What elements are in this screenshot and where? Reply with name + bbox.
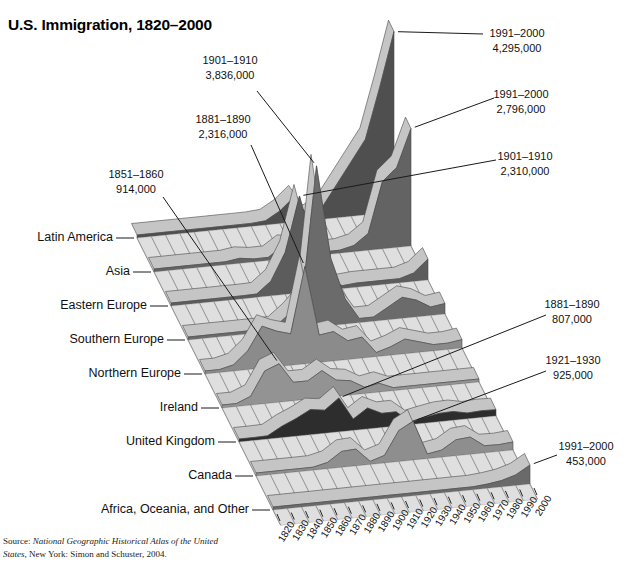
callout-period: 1901–1910 [460, 149, 590, 164]
source-note: Source: National Geographic Historical A… [3, 535, 303, 561]
immigration-chart-page: { "title": "U.S. Immigration, 1820–2000"… [0, 0, 632, 574]
source-line-1: Source: National Geographic Historical A… [3, 535, 303, 548]
callout-value: 807,000 [507, 312, 632, 327]
callout-latin-america: 1991–20004,295,000 [452, 26, 582, 55]
callout-value: 925,000 [508, 368, 632, 383]
row-label-southern-europe: Southern Europe [0, 332, 164, 346]
callout-value: 4,295,000 [452, 41, 582, 56]
row-label-eastern-europe: Eastern Europe [0, 298, 147, 312]
callout-southern-europe: 1901–19103,836,000 [165, 53, 295, 82]
row-label-asia: Asia [0, 264, 130, 278]
callout-value: 2,796,000 [456, 102, 586, 117]
callout-united-kingdom: 1881–1890807,000 [507, 297, 632, 326]
callout-value: 453,000 [521, 454, 632, 469]
callout-period: 1921–1930 [508, 353, 632, 368]
callout-value: 2,310,000 [460, 164, 590, 179]
callout-value: 914,000 [71, 182, 201, 197]
callout-period: 1991–2000 [456, 87, 586, 102]
callout-canada: 1921–1930925,000 [508, 353, 632, 382]
callout-asia: 1991–20002,796,000 [456, 87, 586, 116]
callout-northern-europe: 1881–18902,316,000 [158, 112, 288, 141]
callout-value: 3,836,000 [165, 68, 295, 83]
chart-title: U.S. Immigration, 1820–2000 [8, 16, 212, 34]
callout-period: 1881–1890 [507, 297, 632, 312]
source-line-2: States, New York: Simon and Schuster, 20… [3, 548, 303, 561]
callout-eastern-europe: 1901–19102,310,000 [460, 149, 590, 178]
callout-period: 1991–2000 [452, 26, 582, 41]
row-label-united-kingdom: United Kingdom [0, 434, 215, 448]
callout-ireland: 1851–1860914,000 [71, 167, 201, 196]
callout-period: 1881–1890 [158, 112, 288, 127]
row-label-ireland: Ireland [0, 400, 198, 414]
callout-period: 1851–1860 [71, 167, 201, 182]
callout-period: 1901–1910 [165, 53, 295, 68]
row-label-canada: Canada [0, 468, 232, 482]
callout-value: 2,316,000 [158, 127, 288, 142]
row-label-africa-oceania-and-other: Africa, Oceania, and Other [0, 502, 249, 516]
callout-africa-oceania-and-other: 1991–2000453,000 [521, 439, 632, 468]
row-label-northern-europe: Northern Europe [0, 366, 181, 380]
callout-period: 1991–2000 [521, 439, 632, 454]
row-label-latin-america: Latin America [0, 230, 113, 244]
